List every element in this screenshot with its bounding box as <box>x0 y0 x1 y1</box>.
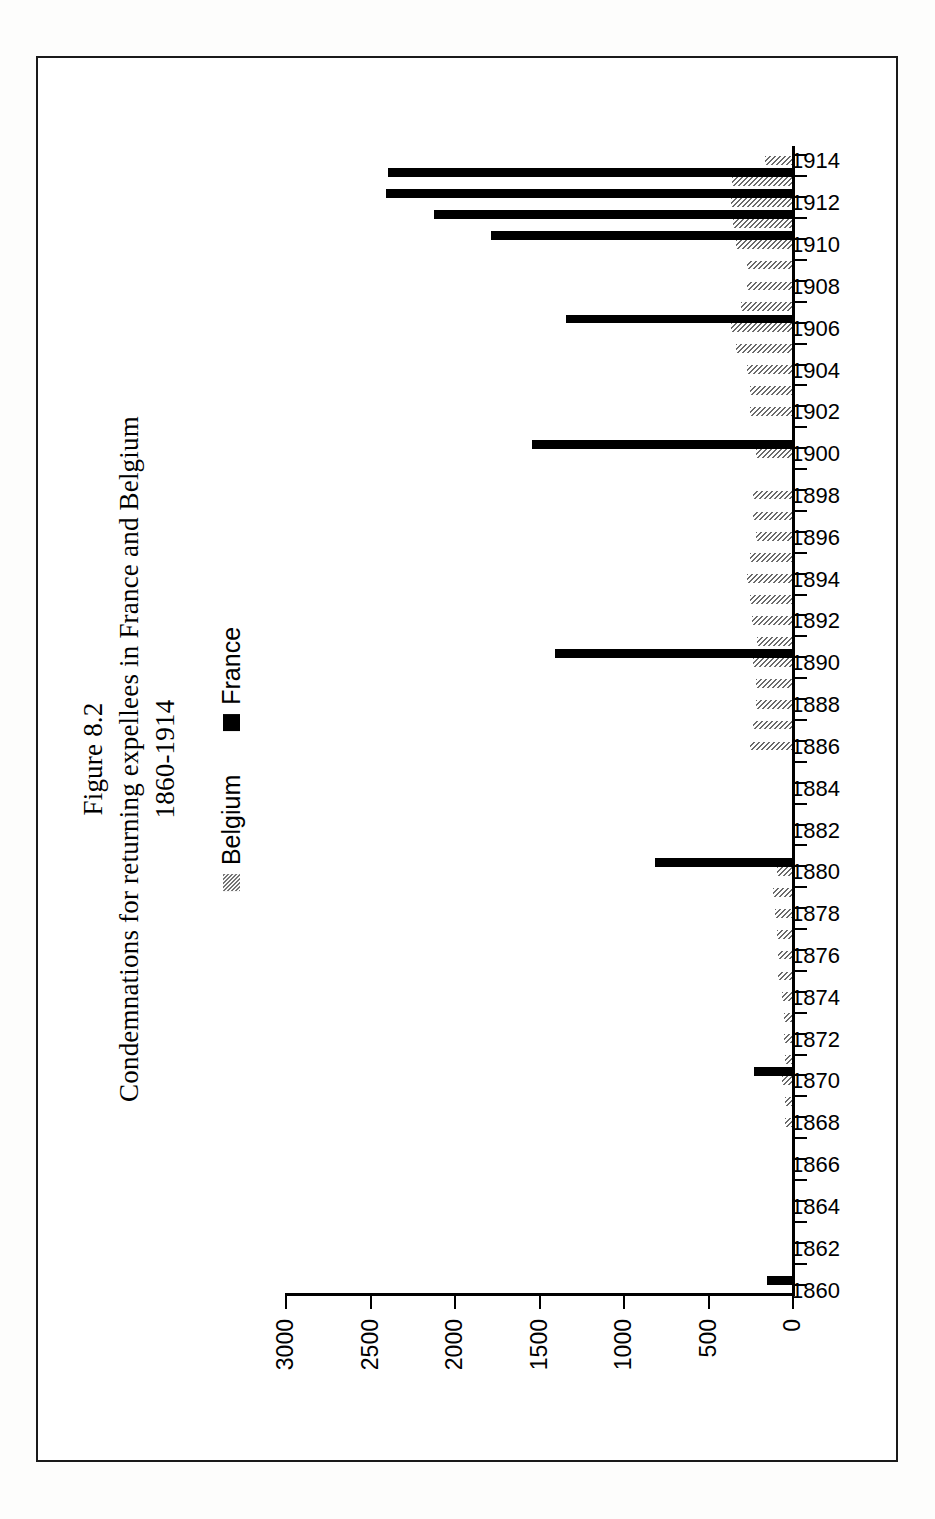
bar-belgium-1905 <box>736 344 792 353</box>
bar-belgium-1911 <box>733 219 792 228</box>
category-tick-label-1866: 1866 <box>791 1152 840 1178</box>
category-tick-1911 <box>795 217 807 219</box>
bar-belgium-1886 <box>750 742 792 751</box>
bar-belgium-1902 <box>750 407 792 416</box>
category-tick-1907 <box>795 301 807 303</box>
category-tick-1861 <box>795 1263 807 1265</box>
category-tick-label-1884: 1884 <box>791 776 840 802</box>
category-tick-label-1882: 1882 <box>791 818 840 844</box>
category-tick-label-1914: 1914 <box>791 148 840 174</box>
category-tick-label-1904: 1904 <box>791 358 840 384</box>
bar-belgium-1895 <box>750 553 792 562</box>
category-tick-1891 <box>795 635 807 637</box>
value-tick-3000 <box>285 1296 287 1309</box>
category-tick-1883 <box>795 803 807 805</box>
chart-legend: Belgium France <box>217 627 246 891</box>
category-tick-label-1864: 1864 <box>791 1194 840 1220</box>
legend-item-belgium: Belgium <box>217 775 246 891</box>
bar-france-1910 <box>491 231 792 240</box>
bar-belgium-1888 <box>756 700 792 709</box>
category-tick-label-1910: 1910 <box>791 232 840 258</box>
bar-belgium-1906 <box>731 323 792 332</box>
figure-number: Figure 8.2 <box>75 94 111 1424</box>
bar-belgium-1900 <box>756 449 792 458</box>
value-tick-1000 <box>623 1296 625 1309</box>
category-tick-1871 <box>795 1054 807 1056</box>
category-tick-label-1862: 1862 <box>791 1236 840 1262</box>
bar-belgium-1878 <box>775 909 792 918</box>
category-tick-1865 <box>795 1179 807 1181</box>
bar-france-1870 <box>754 1067 792 1076</box>
bar-belgium-1892 <box>752 616 792 625</box>
bar-france-1890 <box>555 649 792 658</box>
category-tick-label-1908: 1908 <box>791 274 840 300</box>
bar-belgium-1873 <box>784 1013 792 1022</box>
bar-france-1913 <box>388 168 792 177</box>
bar-belgium-1907 <box>741 303 792 312</box>
bar-belgium-1875 <box>778 972 792 981</box>
value-tick-label-2000: 2000 <box>441 1319 468 1370</box>
figure-frame: Figure 8.2 Condemnations for returning e… <box>36 56 898 1462</box>
category-tick-label-1870: 1870 <box>791 1068 840 1094</box>
bar-belgium-1909 <box>747 261 792 270</box>
category-tick-1899 <box>795 468 807 470</box>
figure-subtitle: 1860-1914 <box>147 94 183 1424</box>
category-tick-1875 <box>795 970 807 972</box>
figure-title-block: Figure 8.2 Condemnations for returning e… <box>75 94 183 1424</box>
category-tick-1873 <box>795 1012 807 1014</box>
bar-belgium-1893 <box>750 595 792 604</box>
legend-swatch-icon-france <box>223 714 240 731</box>
category-tick-label-1860: 1860 <box>791 1278 840 1304</box>
bar-belgium-1904 <box>747 365 792 374</box>
category-tick-label-1880: 1880 <box>791 859 840 885</box>
value-tick-label-0: 0 <box>779 1319 806 1332</box>
bar-belgium-1891 <box>757 637 792 646</box>
category-tick-label-1872: 1872 <box>791 1027 840 1053</box>
bar-belgium-1871 <box>785 1055 792 1064</box>
bar-france-1900 <box>532 440 792 449</box>
rotated-figure-wrapper: Figure 8.2 Condemnations for returning e… <box>67 94 867 1424</box>
category-tick-label-1894: 1894 <box>791 567 840 593</box>
category-tick-1913 <box>795 175 807 177</box>
category-tick-1887 <box>795 719 807 721</box>
category-tick-label-1874: 1874 <box>791 985 840 1011</box>
bar-belgium-1877 <box>777 930 792 939</box>
value-tick-label-2500: 2500 <box>356 1319 383 1370</box>
value-tick-1500 <box>539 1296 541 1309</box>
category-tick-label-1890: 1890 <box>791 650 840 676</box>
bar-france-1906 <box>566 315 792 324</box>
bar-belgium-1914 <box>765 156 792 165</box>
category-tick-1903 <box>795 384 807 386</box>
category-tick-label-1896: 1896 <box>791 525 840 551</box>
value-tick-2000 <box>454 1296 456 1309</box>
category-tick-1889 <box>795 677 807 679</box>
bar-belgium-1913 <box>732 177 792 186</box>
category-tick-1877 <box>795 928 807 930</box>
legend-label-france: France <box>217 627 246 705</box>
category-tick-label-1878: 1878 <box>791 901 840 927</box>
category-tick-1897 <box>795 510 807 512</box>
bar-france-1912 <box>386 189 792 198</box>
category-tick-label-1912: 1912 <box>791 190 840 216</box>
bar-belgium-1880 <box>777 867 792 876</box>
legend-item-france: France <box>217 627 246 731</box>
legend-label-belgium: Belgium <box>217 775 246 865</box>
bar-group <box>285 146 792 1296</box>
category-tick-1881 <box>795 844 807 846</box>
category-tick-label-1876: 1876 <box>791 943 840 969</box>
bar-belgium-1912 <box>731 198 792 207</box>
category-tick-1867 <box>795 1137 807 1139</box>
category-tick-label-1906: 1906 <box>791 316 840 342</box>
category-tick-1905 <box>795 343 807 345</box>
category-tick-1885 <box>795 761 807 763</box>
category-tick-label-1888: 1888 <box>791 692 840 718</box>
category-tick-1863 <box>795 1221 807 1223</box>
category-tick-label-1868: 1868 <box>791 1110 840 1136</box>
bar-belgium-1898 <box>753 491 792 500</box>
category-tick-label-1900: 1900 <box>791 441 840 467</box>
bar-belgium-1876 <box>778 951 792 960</box>
plot-area: 050010001500200025003000 186018621864186… <box>285 146 795 1296</box>
value-tick-label-1000: 1000 <box>610 1319 637 1370</box>
bar-france-1860 <box>767 1276 792 1285</box>
category-tick-label-1902: 1902 <box>791 399 840 425</box>
